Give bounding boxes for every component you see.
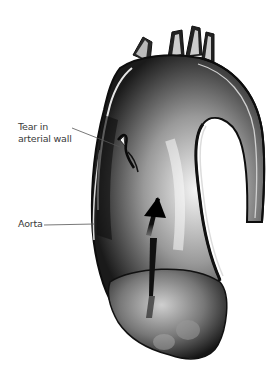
aorta-body — [92, 55, 264, 300]
aortic-root — [108, 269, 226, 359]
tear-label-line2: arterial wall — [18, 133, 88, 145]
aorta-leader-line — [44, 224, 95, 225]
aorta-diagram: Tear in arterial wall Aorta — [0, 0, 275, 383]
tear-label-line1: Tear in — [18, 121, 88, 133]
tear-label: Tear in arterial wall — [18, 121, 88, 145]
aorta-label: Aorta — [18, 218, 43, 230]
aorta-illustration — [0, 0, 275, 383]
